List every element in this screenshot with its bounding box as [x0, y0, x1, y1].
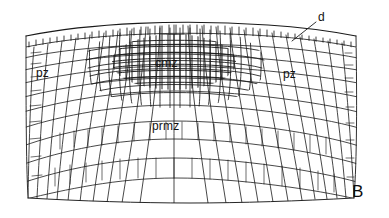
- label-pz-left: pz: [36, 67, 49, 79]
- label-cmz: cmz: [155, 57, 178, 69]
- panel-label-b: B: [352, 183, 363, 200]
- label-d: d: [318, 11, 325, 23]
- label-prmz: prmz: [152, 120, 179, 132]
- figure-panel: cmz pz pz prmz d B: [0, 0, 389, 218]
- d-leader-line: [292, 22, 316, 41]
- meristem-line-drawing: [0, 0, 389, 218]
- label-pz-right: pz: [283, 68, 296, 80]
